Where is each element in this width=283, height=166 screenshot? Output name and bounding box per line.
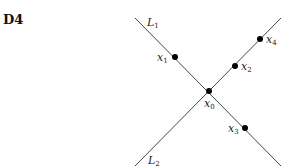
point-label-x4: x4 [266,33,277,47]
point-label-x2: x2 [241,60,252,74]
point-label-x1: x1 [157,51,168,65]
intersecting-lines-diagram: L1L2x0x1x2x3x4 [0,0,283,166]
point-label-x0: x0 [204,97,215,111]
point-x3 [242,125,248,131]
line-label-l1: L1 [146,16,159,30]
point-x4 [257,36,263,42]
point-x1 [172,54,178,60]
line-label-l2: L2 [147,154,160,166]
point-label-x3: x3 [228,122,239,136]
point-x2 [232,63,238,69]
point-x0 [206,88,212,94]
